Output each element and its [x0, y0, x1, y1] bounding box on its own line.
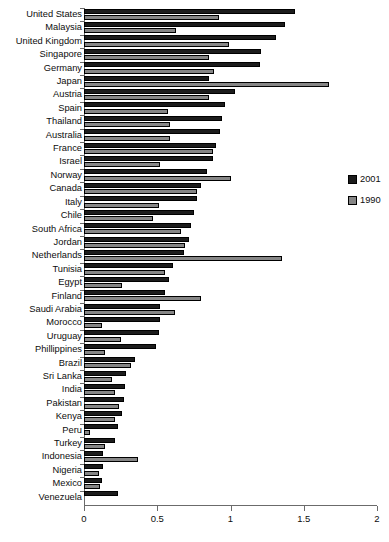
category-label: Nigeria: [53, 464, 82, 477]
category-label: Austria: [53, 88, 82, 101]
legend-item[interactable]: 1990: [348, 193, 389, 207]
bar-2001: [84, 317, 160, 322]
bar-1990: [84, 42, 229, 47]
bar-row: Brazil: [0, 357, 389, 370]
legend: 20011990: [348, 172, 389, 214]
x-axis-tick-label: 0: [81, 513, 86, 524]
x-axis-tick-label: 2: [374, 513, 379, 524]
category-label: South Africa: [32, 223, 82, 236]
bar-row: Malaysia: [0, 21, 389, 34]
bar-1990: [84, 149, 213, 154]
category-label: Thailand: [46, 115, 82, 128]
bar-2001: [84, 491, 118, 496]
bar-2001: [84, 384, 125, 389]
bar-1990: [84, 337, 121, 342]
bar-1990: [84, 109, 168, 114]
bar-2001: [84, 35, 276, 40]
bar-group: [84, 236, 389, 249]
bar-group: [84, 21, 389, 34]
bar-1990: [84, 350, 105, 355]
category-label: Turkey: [54, 437, 82, 450]
bar-row: France: [0, 142, 389, 155]
bar-2001: [84, 330, 159, 335]
bar-row: United Kingdom: [0, 35, 389, 48]
category-label: Pakistan: [46, 397, 82, 410]
category-label: Chile: [61, 209, 82, 222]
bar-row: Finland: [0, 290, 389, 303]
category-label: Brazil: [59, 357, 82, 370]
bar-row: Phillippines: [0, 343, 389, 356]
category-label: Italy: [65, 196, 82, 209]
bar-group: [84, 62, 389, 75]
category-label: Finland: [52, 290, 83, 303]
bar-1990: [84, 390, 115, 395]
x-axis-tick: [84, 506, 85, 511]
bar-1990: [84, 95, 209, 100]
bar-1990: [84, 377, 112, 382]
bar-2001: [84, 290, 165, 295]
bar-1990: [84, 444, 105, 449]
bar-group: [84, 209, 389, 222]
bar-1990: [84, 203, 159, 208]
bar-2001: [84, 344, 156, 349]
category-label: United States: [26, 8, 82, 21]
bar-group: [84, 142, 389, 155]
category-label: Morocco: [46, 316, 82, 329]
bar-row: Egypt: [0, 276, 389, 289]
bar-row: Italy: [0, 196, 389, 209]
bar-row: Austria: [0, 88, 389, 101]
bar-2001: [84, 183, 201, 188]
bar-2001: [84, 223, 191, 228]
bar-2001: [84, 424, 118, 429]
bar-2001: [84, 22, 285, 27]
bar-group: [84, 129, 389, 142]
category-label: Malaysia: [45, 21, 82, 34]
bar-group: [84, 450, 389, 463]
x-axis-tick: [377, 506, 378, 511]
bar-group: [84, 155, 389, 168]
bar-1990: [84, 82, 329, 87]
bar-group: [84, 357, 389, 370]
x-axis-tick-label: 0.5: [151, 513, 164, 524]
bar-row: Peru: [0, 424, 389, 437]
x-axis-tick: [231, 506, 232, 511]
x-axis-tick-label: 1.5: [297, 513, 310, 524]
category-label: Egypt: [58, 276, 82, 289]
legend-item[interactable]: 2001: [348, 172, 389, 186]
bar-row: Nigeria: [0, 464, 389, 477]
bar-group: [84, 75, 389, 88]
bar-2001: [84, 116, 222, 121]
bar-1990: [84, 323, 102, 328]
bar-group: [84, 35, 389, 48]
horizontal-bar-chart: United StatesMalaysiaUnited KingdomSinga…: [0, 0, 389, 542]
bar-group: [84, 48, 389, 61]
bar-group: [84, 383, 389, 396]
bar-group: [84, 477, 389, 490]
bar-1990: [84, 310, 175, 315]
bar-row: Saudi Arabia: [0, 303, 389, 316]
bar-2001: [84, 156, 213, 161]
bar-2001: [84, 169, 207, 174]
bar-group: [84, 464, 389, 477]
category-label: Peru: [62, 424, 82, 437]
bar-1990: [84, 216, 153, 221]
bar-group: [84, 276, 389, 289]
bar-row: Thailand: [0, 115, 389, 128]
bar-group: [84, 437, 389, 450]
bar-1990: [84, 243, 185, 248]
bar-group: [84, 8, 389, 21]
bar-2001: [84, 237, 189, 242]
bar-row: Canada: [0, 182, 389, 195]
bar-1990: [84, 122, 170, 127]
x-axis-tick: [157, 506, 158, 511]
category-label: United Kingdom: [16, 35, 82, 48]
bar-group: [84, 182, 389, 195]
bar-2001: [84, 210, 194, 215]
bar-row: Australia: [0, 129, 389, 142]
bar-2001: [84, 62, 260, 67]
bar-row: South Africa: [0, 223, 389, 236]
bar-group: [84, 316, 389, 329]
bar-2001: [84, 438, 115, 443]
bar-1990: [84, 15, 219, 20]
x-axis-tick: [304, 506, 305, 511]
